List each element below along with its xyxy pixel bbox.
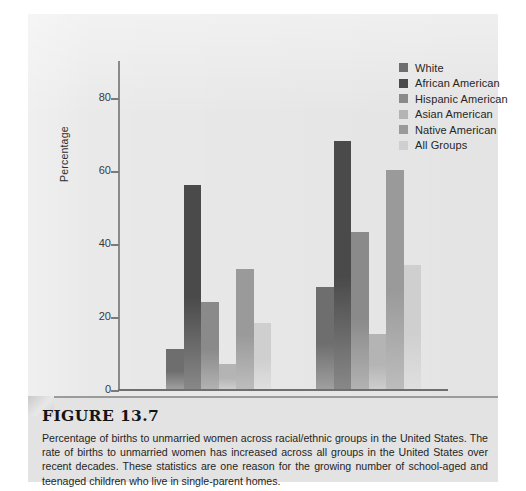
bar: [236, 269, 254, 389]
legend-swatch-icon: [399, 94, 408, 103]
bar: [386, 170, 404, 389]
figure-heading: FIGURE 13.7: [42, 406, 159, 425]
bar: [166, 349, 184, 389]
bar-fill: [386, 170, 404, 389]
legend-item-label: All Groups: [415, 139, 467, 151]
bar-fill: [166, 349, 184, 389]
legend-item-label: White: [415, 62, 444, 74]
legend-item: Asian American: [399, 107, 526, 123]
bar-fill: [351, 232, 369, 389]
bar: [404, 265, 422, 389]
bar-fill: [219, 364, 237, 390]
legend-swatch-icon: [399, 63, 408, 72]
legend-item: All Groups: [399, 138, 526, 154]
y-axis-tick-label: 20: [99, 310, 111, 322]
bar: [334, 141, 352, 389]
y-axis-tick-label: 80: [99, 91, 111, 103]
legend-item: Native American: [399, 122, 526, 138]
bar-fill: [254, 323, 272, 389]
bar: [184, 185, 202, 389]
bar-fill: [236, 269, 254, 389]
bar-chart: Percentage 020406080 19802001 WhiteAfric…: [56, 34, 476, 402]
figure-caption-block: FIGURE 13.7 Percentage of births to unma…: [28, 396, 498, 482]
figure-caption-text: Percentage of births to unmarried women …: [42, 431, 488, 488]
bar: [201, 302, 219, 389]
y-axis-tick-label: 0: [105, 383, 111, 395]
y-axis-tick-label: 40: [99, 237, 111, 249]
bar-fill: [184, 185, 202, 389]
bar-fill: [334, 141, 352, 389]
bar: [219, 364, 237, 390]
y-axis-tick-mark: [111, 390, 119, 392]
bar-fill: [404, 265, 422, 389]
x-axis-line: [118, 389, 448, 391]
legend-item: White: [399, 60, 526, 76]
y-axis-title: Percentage: [58, 126, 70, 182]
bar-fill: [316, 287, 334, 389]
legend-item: Hispanic American: [399, 91, 526, 107]
bar: [351, 232, 369, 389]
legend-item-label: African American: [415, 77, 500, 89]
bar-fill: [369, 334, 387, 389]
legend-swatch-icon: [399, 79, 408, 88]
y-axis-tick-label: 60: [99, 164, 111, 176]
legend-item-label: Native American: [415, 124, 497, 136]
legend-item-label: Hispanic American: [415, 93, 508, 105]
bar-fill: [201, 302, 219, 389]
legend-item-label: Asian American: [415, 108, 493, 120]
bar: [254, 323, 272, 389]
chart-legend: WhiteAfrican AmericanHispanic AmericanAs…: [399, 60, 526, 153]
legend-swatch-icon: [399, 141, 408, 150]
bar: [369, 334, 387, 389]
legend-swatch-icon: [399, 110, 408, 119]
legend-swatch-icon: [399, 125, 408, 134]
legend-item: African American: [399, 76, 526, 92]
bar: [316, 287, 334, 389]
